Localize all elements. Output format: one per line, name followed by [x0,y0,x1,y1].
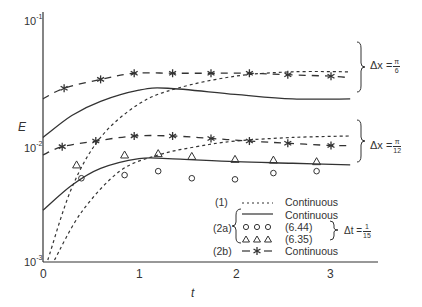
annotation-prefix: Δt = [344,225,362,236]
circle-marker [271,170,277,176]
brace-dx-pi-6 [357,42,365,92]
circle-marker [314,168,320,174]
annotation-dx-pi-6: Δx =π6 [370,58,400,75]
y-tick-label-1e-1: 10-1 [24,14,42,27]
legend-brace-dt [330,221,338,240]
star-markers [59,132,335,151]
legend-text-2a: Continuous [285,210,338,221]
plot-area [43,42,365,260]
x-tick-label-1: 1 [136,268,143,280]
triangle-marker [121,151,129,158]
legend-circle-symbol [265,224,270,229]
y-axis-label: E [18,121,26,133]
fraction-numerator: π [393,138,401,147]
y-tick-base: 10 [24,256,36,268]
x-axis-label: t [191,287,194,299]
fraction-denominator: 15 [363,232,371,240]
circle-marker [189,175,195,181]
legend-text-644: (6.44) [285,222,312,233]
y-tick-base: 10 [24,142,36,154]
circle-marker [155,168,161,174]
circle-marker [122,172,128,178]
legend-text-635: (6.35) [285,234,312,245]
fraction-numerator: 1 [363,223,371,232]
y-tick-exp: -1 [36,13,42,20]
annotation-prefix: Δx = [370,139,392,151]
fraction: 115 [363,223,371,240]
fraction: π12 [393,138,401,155]
legend-triangle-symbol [265,236,272,242]
annotation-dt-1-15: Δt =115 [344,223,371,240]
y-tick-exp: -3 [36,254,42,261]
y-tick-base: 10 [24,15,36,27]
legend-circle-symbol [243,224,248,229]
legend-triangle-symbol [254,236,261,242]
solid-curve [43,88,350,138]
legend-text-2b: Continuous [285,246,338,257]
legend-text-1: Continuous [285,197,338,208]
y-tick-label-1e-3: 10-3 [24,255,42,268]
y-tick-exp: -2 [36,140,42,147]
dashed-curve [43,136,350,155]
legend-triangle-symbol [243,236,250,242]
legend-id-1: (1) [215,197,228,208]
chart-canvas [0,0,422,307]
fraction-denominator: 6 [393,67,400,75]
fraction-numerator: π [393,58,400,67]
legend-id-2a: (2a) [213,223,232,234]
x-tick-label-0: 0 [40,268,47,280]
brace-dx-pi-12 [357,120,365,162]
legend-circle-symbol [254,224,259,229]
dashed-curve [43,73,350,99]
y-tick-label-1e-2: 10-2 [24,141,42,154]
annotation-dx-pi-12: Δx =π12 [370,138,401,155]
fraction: π6 [393,58,400,75]
fraction-denominator: 12 [393,147,401,155]
circle-marker [232,177,238,183]
triangle-marker [188,152,196,159]
annotation-prefix: Δx = [370,59,392,71]
x-tick-label-2: 2 [233,268,240,280]
triangle-marker [73,161,81,168]
x-tick-label-3: 3 [327,268,334,280]
legend-id-2b: (2b) [213,246,232,257]
legend-brace-2a [232,209,241,243]
